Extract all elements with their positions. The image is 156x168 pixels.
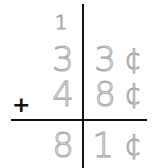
addend2-ones: 8 bbox=[93, 77, 117, 111]
addend2-cent-sign: ¢ bbox=[123, 81, 143, 109]
sum-ones: 1 bbox=[91, 128, 115, 162]
addend1-ones: 3 bbox=[93, 42, 117, 76]
place-value-divider-vertical bbox=[82, 4, 84, 168]
sum-cent-sign: ¢ bbox=[123, 132, 143, 160]
sum-line bbox=[11, 119, 147, 121]
sum-tens: 8 bbox=[51, 128, 75, 162]
carry-digit: 1 bbox=[53, 12, 69, 32]
addend1-cent-sign: ¢ bbox=[123, 46, 143, 74]
plus-sign: + bbox=[12, 94, 28, 116]
addend2-tens: 4 bbox=[51, 77, 75, 111]
addend1-tens: 3 bbox=[51, 42, 75, 76]
